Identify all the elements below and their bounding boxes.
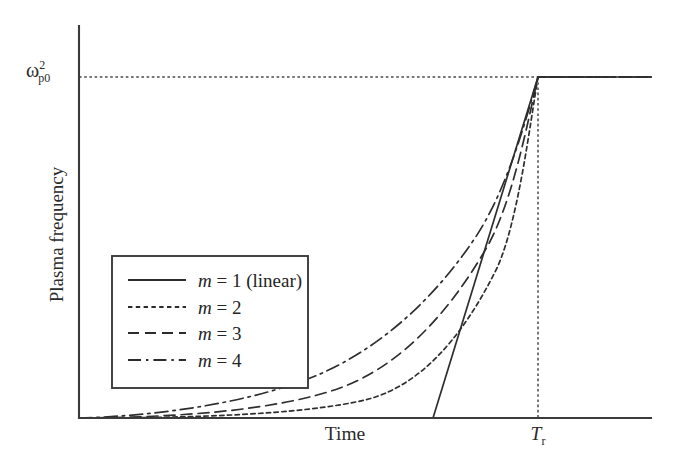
legend-label-m1: m = 1 (linear)	[198, 270, 302, 292]
legend-m-value: = 1 (linear)	[212, 270, 302, 291]
x-axis-tick-label-tr: Tr	[512, 424, 564, 444]
tr-subscript: r	[541, 434, 545, 448]
legend-m-symbol: m	[198, 270, 212, 291]
legend-m-value: = 3	[212, 323, 242, 344]
legend-label-m2: m = 2	[198, 297, 241, 319]
legend-m-value: = 2	[212, 297, 242, 318]
legend-m-symbol: m	[198, 297, 212, 318]
chart-figure: ω2p0 Plasma frequency Time Tr m = 1 (lin…	[0, 0, 682, 463]
legend-label-m3: m = 3	[198, 323, 241, 345]
tr-symbol: T	[531, 423, 542, 444]
legend-m-symbol: m	[198, 350, 212, 371]
plot-canvas	[0, 0, 682, 463]
legend-label-m4: m = 4	[198, 350, 241, 372]
x-axis-title: Time	[295, 424, 395, 444]
legend-m-symbol: m	[198, 323, 212, 344]
omega-subscript: p0	[38, 71, 50, 85]
y-axis-level-label: ω2p0	[26, 60, 50, 80]
y-axis-title: Plasma frequency	[47, 135, 66, 335]
legend-m-value: = 4	[212, 350, 242, 371]
